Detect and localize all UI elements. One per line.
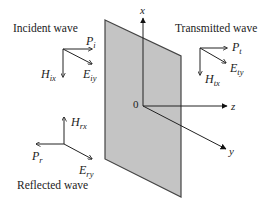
transmitted-wave-title: Transmitted wave <box>175 22 257 34</box>
incident-h-field-label: Hix <box>40 67 56 83</box>
origin-label: 0 <box>133 98 139 110</box>
wave-diagram: x z y 0 Incident wave Pi Eiy Hix Transmi… <box>0 0 274 203</box>
incident-wave-group: Incident wave Pi Eiy Hix <box>13 22 97 83</box>
transmitted-power-label: Pt <box>231 40 242 56</box>
z-axis-label: z <box>230 100 236 112</box>
reflected-e-field-arrow <box>64 144 92 159</box>
incident-power-label: Pi <box>85 34 96 50</box>
transmitted-h-field-label: Htx <box>204 72 220 88</box>
y-axis-label: y <box>228 145 234 157</box>
transmitted-e-field-label: Ety <box>229 61 244 77</box>
incident-wave-title: Incident wave <box>13 22 78 34</box>
transmitted-e-field-arrow <box>200 48 226 63</box>
incident-e-field-label: Eiy <box>82 67 97 83</box>
reflected-h-field-label: Hrx <box>70 115 87 131</box>
reflected-e-field-label: Ery <box>78 163 94 179</box>
incident-e-field-arrow <box>63 49 92 64</box>
x-axis-label: x <box>139 4 145 16</box>
reflected-wave-title: Reflected wave <box>17 179 88 191</box>
transmitted-wave-group: Transmitted wave Pt Ety Htx <box>175 22 257 88</box>
reflected-wave-group: Hrx Pr Ery Reflected wave <box>17 115 94 191</box>
reflected-power-label: Pr <box>31 149 43 165</box>
